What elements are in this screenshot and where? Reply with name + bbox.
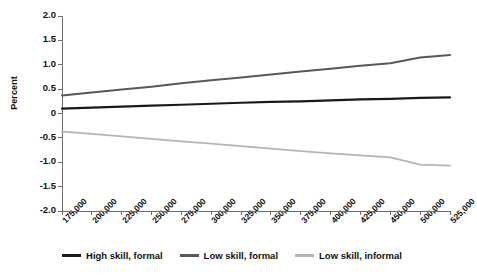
legend-label: Low skill, formal: [204, 250, 278, 261]
series-line: [62, 132, 450, 166]
legend-label: High skill, formal: [86, 250, 163, 261]
chart-legend: High skill, formal Low skill, formal Low…: [0, 250, 464, 261]
legend-item-low-skill-formal[interactable]: Low skill, formal: [180, 250, 278, 261]
legend-item-high-skill-formal[interactable]: High skill, formal: [62, 250, 163, 261]
legend-item-low-skill-informal[interactable]: Low skill, informal: [295, 250, 402, 261]
legend-label: Low skill, informal: [319, 250, 402, 261]
legend-swatch-icon: [62, 254, 81, 257]
series-line: [62, 55, 450, 95]
legend-swatch-icon: [295, 254, 314, 256]
series-line: [62, 97, 450, 108]
legend-swatch-icon: [180, 254, 199, 257]
